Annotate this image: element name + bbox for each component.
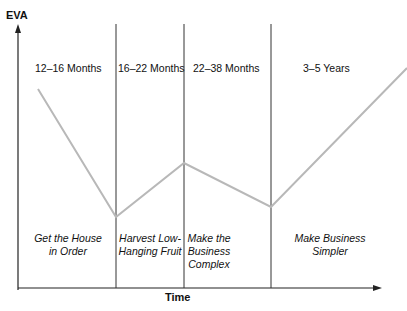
x-axis-label: Time: [165, 291, 190, 303]
phase-label-4: Make Business Simpler: [285, 232, 375, 258]
y-axis-label: EVA: [6, 9, 28, 21]
period-duration-3: 22–38 Months: [193, 62, 260, 74]
phase-label-2: Harvest Low- Hanging Fruit: [116, 232, 184, 258]
phase-label-3: Make the Business Complex: [184, 232, 234, 271]
phase-label-1: Get the House in Order: [24, 232, 112, 258]
period-duration-1: 12–16 Months: [35, 62, 102, 74]
period-duration-4: 3–5 Years: [303, 62, 350, 74]
y-axis-arrow-icon: [15, 24, 21, 33]
eva-trend-line: [38, 68, 407, 217]
period-duration-2: 16–22 Months: [118, 62, 185, 74]
x-axis-arrow-icon: [373, 285, 382, 291]
